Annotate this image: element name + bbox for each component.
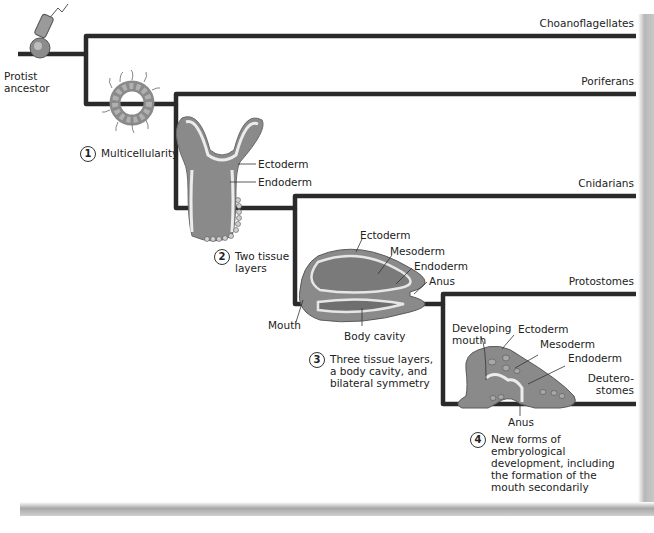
diagram-page: Choanoflagellates Poriferans Cnidarians … (0, 0, 654, 533)
cnidarian-ectoderm-label: Ectoderm (258, 158, 308, 170)
branch-poriferans (86, 54, 636, 104)
innovation-text: Three tissue layers, a body cavity, and … (330, 353, 433, 389)
cnidarian-cross-section-icon (176, 117, 263, 242)
deuterostome-developing-mouth-label: Developing mouth (452, 322, 511, 346)
innovation-1: 1 Multicellularity (80, 147, 178, 162)
root-label: Protist ancestor (4, 70, 50, 94)
innovation-3: 3 Three tissue layers, a body cavity, an… (309, 353, 433, 389)
taxon-label-cnidarians: Cnidarians (578, 177, 634, 189)
innovation-text: Multicellularity (101, 147, 178, 159)
deuterostome-ectoderm-label: Ectoderm (518, 323, 568, 335)
protostome-ectoderm-label: Ectoderm (360, 229, 410, 241)
step-number-badge: 4 (470, 432, 486, 448)
step-number-badge: 2 (214, 249, 230, 265)
innovation-4: 4 New forms of embryological development… (470, 433, 615, 493)
cnidarian-endoderm-label: Endoderm (258, 176, 312, 188)
step-number-badge: 3 (309, 352, 325, 368)
protist-ancestor-icon (30, 4, 68, 58)
innovation-text: New forms of embryological development, … (491, 433, 615, 493)
taxon-label-choanoflagellates: Choanoflagellates (540, 17, 634, 29)
protostome-mouth-label: Mouth (268, 319, 301, 331)
deuterostome-endoderm-label: Endoderm (568, 352, 622, 364)
taxon-label-protostomes: Protostomes (569, 275, 634, 287)
deuterostome-anus-label: Anus (508, 416, 534, 428)
deuterostome-mesoderm-label: Mesoderm (540, 338, 595, 350)
step-number-badge: 1 (80, 146, 96, 162)
protostome-anus-label: Anus (429, 275, 455, 287)
taxon-label-deuterostomes: Deutero- stomes (588, 372, 634, 396)
protostome-body-cavity-label: Body cavity (344, 330, 406, 342)
innovation-text: Two tissue layers (235, 250, 289, 274)
branch-choanoflagellates (18, 36, 636, 54)
multicellular-colony-icon (102, 70, 160, 133)
innovation-2: 2 Two tissue layers (214, 250, 289, 274)
taxon-label-poriferans: Poriferans (581, 75, 634, 87)
protostome-endoderm-label: Endoderm (414, 260, 468, 272)
protostome-mesoderm-label: Mesoderm (390, 245, 445, 257)
